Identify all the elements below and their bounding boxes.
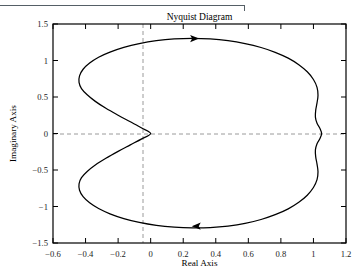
x-axis-label: Real Axis bbox=[182, 258, 218, 268]
y-tick-label: −1 bbox=[39, 202, 48, 212]
y-tick-label: −0.5 bbox=[32, 165, 48, 175]
y-axis-label: Imaginary Axis bbox=[8, 105, 18, 162]
direction-arrows bbox=[190, 35, 201, 230]
y-tick-label: −1.5 bbox=[32, 238, 48, 248]
direction-arrow-lower bbox=[192, 223, 201, 230]
plot-canvas: Nyquist Diagram −0.6−0.4−0.200.20.40.60.… bbox=[0, 0, 361, 280]
x-tick-label: 1 bbox=[311, 249, 315, 259]
x-tick-label: 1.2 bbox=[341, 249, 352, 259]
x-tick-label: 0.8 bbox=[276, 249, 287, 259]
y-tick-label: 0.5 bbox=[37, 92, 48, 102]
zero-reference-lines bbox=[53, 24, 346, 243]
nyquist-figure: Nyquist Diagram −0.6−0.4−0.200.20.40.60.… bbox=[0, 0, 361, 280]
nyquist-curve bbox=[79, 38, 322, 228]
y-tick-label: 0 bbox=[44, 129, 48, 139]
y-tick-label: 1.5 bbox=[37, 19, 48, 29]
y-axis-tick-labels: 1.510.50−0.5−1−1.5 bbox=[32, 19, 48, 248]
y-tick-label: 1 bbox=[44, 56, 48, 66]
x-tick-label: −0.4 bbox=[78, 249, 94, 259]
chart-title: Nyquist Diagram bbox=[167, 12, 233, 22]
x-tick-label: 0.6 bbox=[243, 249, 254, 259]
x-tick-label: 0 bbox=[149, 249, 153, 259]
x-tick-label: −0.6 bbox=[45, 249, 61, 259]
x-tick-label: −0.2 bbox=[110, 249, 126, 259]
